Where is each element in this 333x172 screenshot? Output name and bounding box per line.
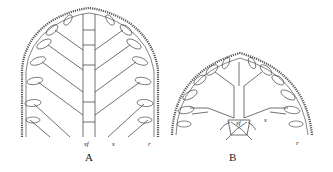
panel-b-label-sf: sf (236, 120, 241, 127)
panel-a-drawing (22, 8, 158, 137)
panel-a-label-sf: sf (84, 141, 89, 148)
panel-b-caption: B (229, 152, 236, 163)
panel-b-label-s: s (264, 117, 267, 124)
panel-a-label-r: r (148, 141, 151, 148)
botanical-illustration (0, 0, 333, 172)
panel-a-caption: A (85, 152, 93, 163)
panel-b-drawing (172, 53, 312, 140)
panel-a-label-s: s (112, 141, 115, 148)
panel-b-label-r: r (296, 140, 299, 147)
